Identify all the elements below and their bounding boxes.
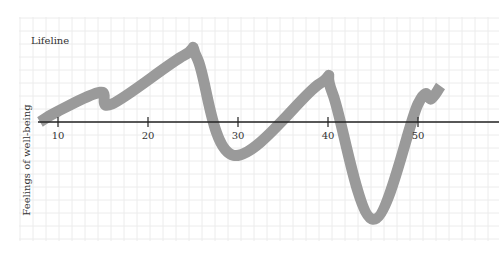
grid <box>19 17 499 241</box>
y-axis-label: Feelings of well-being <box>21 104 32 216</box>
svg-text:10: 10 <box>52 130 65 141</box>
x-axis-ticks: 10 20 30 40 50 <box>52 117 425 141</box>
svg-text:30: 30 <box>232 130 245 141</box>
svg-text:20: 20 <box>142 130 155 141</box>
svg-text:40: 40 <box>322 130 335 141</box>
svg-text:50: 50 <box>412 130 425 141</box>
chart-title: Lifeline <box>31 35 69 46</box>
tick-10: 10 <box>52 117 65 141</box>
tick-20: 20 <box>142 117 155 141</box>
tick-30: 30 <box>232 117 245 141</box>
lifeline-chart: Lifeline Feelings of well-being 10 20 30… <box>0 0 501 255</box>
